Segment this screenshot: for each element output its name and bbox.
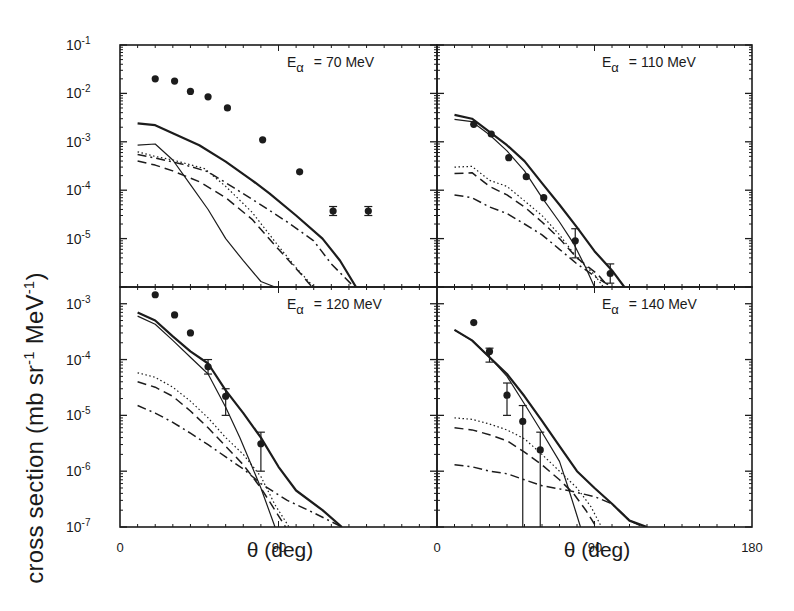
y-tick-label: 10-1 — [66, 35, 91, 53]
panel-title: Eα= 70 MeV — [287, 54, 375, 75]
panel-title: Eα= 140 MeV — [602, 296, 698, 317]
data-point — [470, 319, 477, 326]
curve-thick — [455, 330, 648, 527]
y-tick-label: 10-7 — [66, 517, 91, 535]
x-tick-label: 180 — [741, 540, 763, 555]
panel-top-left: 10-110-210-310-410-5Eα= 70 MeV — [66, 35, 437, 287]
data-point — [329, 207, 336, 214]
data-point — [503, 392, 510, 399]
data-point — [187, 88, 194, 95]
panel-top-right: Eα= 110 MeV — [437, 45, 752, 287]
curve-dashdot — [455, 465, 644, 527]
y-tick-label: 10-4 — [66, 350, 91, 368]
panel-title: Eα= 120 MeV — [287, 296, 383, 317]
data-point — [204, 363, 211, 370]
data-point — [187, 329, 194, 336]
data-point — [505, 154, 512, 161]
data-point — [519, 418, 526, 425]
curve-thick — [455, 115, 625, 287]
data-point — [152, 75, 159, 82]
y-tick-label: 10-3 — [66, 132, 91, 150]
data-point — [152, 291, 159, 298]
y-tick-label: 10-6 — [66, 461, 91, 479]
data-point — [537, 446, 544, 453]
x-tick-label: 0 — [433, 540, 440, 555]
panel-title: Eα= 110 MeV — [602, 54, 697, 75]
y-axis-label-text: cross section (mb sr — [21, 365, 48, 584]
data-point — [572, 237, 579, 244]
data-point — [204, 93, 211, 100]
curve-dashed — [455, 428, 597, 527]
curve-solid — [455, 330, 581, 527]
data-point — [486, 348, 493, 355]
data-point — [470, 121, 477, 128]
data-point — [607, 270, 614, 277]
curve-dashdot — [138, 406, 342, 528]
data-point — [171, 77, 178, 84]
panel-frame — [120, 45, 437, 287]
data-point — [222, 393, 229, 400]
y-axis-label-close: ) — [21, 272, 48, 280]
plot-area: 10-110-210-310-410-5Eα= 70 MeVEα= 110 Me… — [0, 0, 794, 611]
y-axis-label: cross section (mb sr-1 MeV-1) — [20, 248, 50, 608]
data-point — [296, 168, 303, 175]
data-point — [171, 311, 178, 318]
x-axis-label-left: θ (deg) — [210, 538, 350, 562]
data-point — [365, 207, 372, 214]
curve-dashed — [138, 161, 312, 287]
data-point — [224, 104, 231, 111]
data-point — [488, 130, 495, 137]
x-axis-label-right: θ (deg) — [527, 538, 667, 562]
y-tick-label: 10-2 — [66, 83, 91, 101]
curve-dotted — [138, 152, 314, 287]
y-tick-label: 10-5 — [66, 405, 91, 423]
curve-thick — [138, 123, 356, 287]
panel-bottom-left: 10-310-410-510-610-7Eα= 120 MeV — [66, 287, 437, 535]
curve-solid — [138, 316, 275, 527]
data-point — [540, 194, 547, 201]
y-tick-label: 10-5 — [66, 229, 91, 247]
curve-dashdot — [138, 154, 355, 287]
data-point — [257, 440, 264, 447]
y-axis-label-exp1: -1 — [20, 351, 37, 365]
y-axis-label-exp2: -1 — [20, 281, 37, 295]
figure: 10-110-210-310-410-5Eα= 70 MeVEα= 110 Me… — [0, 0, 794, 611]
y-tick-label: 10-3 — [66, 294, 91, 312]
curve-dashed — [138, 382, 286, 527]
panel-frame — [120, 287, 437, 527]
panel-bottom-right: Eα= 140 MeV — [437, 287, 752, 527]
y-tick-label: 10-4 — [66, 180, 91, 198]
y-axis-label-unit: MeV — [21, 294, 48, 351]
data-point — [259, 136, 266, 143]
data-point — [523, 173, 530, 180]
x-tick-label: 0 — [116, 540, 123, 555]
panel-frame — [437, 287, 752, 527]
